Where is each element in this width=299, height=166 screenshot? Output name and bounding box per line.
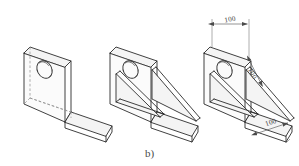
view-3-dimensioned-angle-bracket: 100 100 100	[204, 15, 294, 143]
dimension-label-width-top: 100	[224, 15, 237, 25]
view-1-base-plate	[65, 112, 112, 136]
view-2-angle-bracket-with-gussets	[110, 47, 200, 142]
figure-caption: b)	[0, 146, 299, 160]
view-1-plain-angle-bracket	[24, 47, 112, 142]
isometric-bracket-drawing: 100 100 100	[0, 0, 299, 166]
technical-drawing-figure: 100 100 100 b)	[0, 0, 299, 166]
